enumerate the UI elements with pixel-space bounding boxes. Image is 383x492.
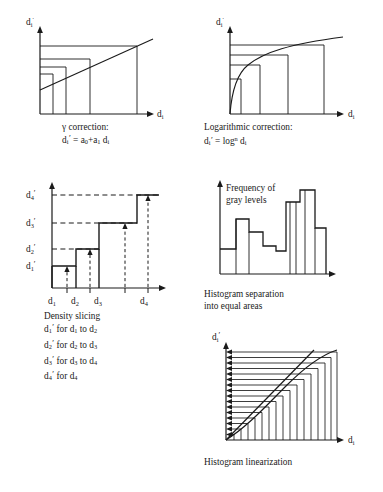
mapping-arrowheads — [226, 349, 232, 437]
y-axis-arrowhead — [217, 180, 223, 187]
caption-line-5: d4′ for d4 — [44, 369, 100, 385]
caption-title: Density slicing — [44, 310, 100, 322]
histogram-separation-plot: Frequency of gray levels — [208, 174, 368, 286]
transfer-function-line — [40, 39, 153, 90]
histogram-linearization-caption: Histogram linearization — [204, 456, 292, 468]
vertical-divider-lines — [53, 46, 137, 114]
radiometric-enhancement-figure: di′ di γ correction: di′ = a0+a1 di — [0, 0, 383, 492]
y-tick-label-d4: d4′ — [26, 189, 36, 202]
x-axis-arrowhead — [337, 437, 344, 443]
logarithmic-correction-panel: di′ di — [212, 18, 367, 122]
caption-line-3: d2′ for d2 to d3 — [44, 338, 100, 354]
x-axis-arrowhead — [329, 271, 336, 277]
step-transfer-function — [52, 195, 159, 266]
y-tick-label-d3: d3′ — [26, 217, 36, 230]
x-axis-arrowhead — [337, 111, 344, 117]
reference-line — [226, 350, 314, 440]
density-slicing-panel: d4′ d3′ d2′ d1′ d1 d2 d3 d4 — [14, 174, 186, 306]
caption-line-2: into equal areas — [204, 300, 284, 312]
y-axis-label: di′ — [26, 18, 34, 28]
x-axis-label: di — [157, 109, 164, 120]
x-tick-label-d1: d1 — [48, 296, 56, 306]
y-axis-label: di′ — [212, 331, 220, 344]
x-tick-label-d4: d4 — [140, 296, 149, 306]
x-tick-label-d3: d3 — [94, 296, 102, 306]
logarithmic-correction-plot: di′ di — [212, 18, 367, 122]
y-axis-arrowhead — [49, 182, 55, 189]
cumulative-histogram-curve — [226, 350, 337, 440]
x-axis-label: di — [348, 435, 355, 446]
horizontal-level-lines — [40, 46, 137, 74]
caption-line-1: Histogram separation — [204, 288, 284, 300]
x-axis-arrowhead — [147, 111, 154, 117]
y-axis-label-line-2: gray levels — [226, 195, 267, 205]
density-slicing-caption: Density slicing d1′ for d1 to d2 d2′ for… — [44, 310, 100, 385]
histogram-linearization-panel: di′ di — [200, 330, 375, 456]
y-tick-label-d1: d1′ — [26, 260, 36, 273]
caption-line-1: γ correction: — [62, 121, 109, 133]
caption-line-2: di′ = logn di — [204, 133, 293, 150]
histogram-separation-panel: Frequency of gray levels — [208, 174, 368, 286]
caption-line-4: d3′ for d3 to d4 — [44, 354, 100, 370]
y-axis-arrowhead — [37, 26, 43, 33]
transfer-function-curve — [230, 37, 343, 114]
gamma-correction-panel: di′ di — [22, 18, 172, 122]
density-slicing-plot: d4′ d3′ d2′ d1′ d1 d2 d3 d4 — [14, 174, 186, 306]
x-axis-label: di — [348, 109, 355, 120]
x-tick-label-d2: d2 — [71, 296, 79, 306]
caption-line-1: Logarithmic correction: — [204, 121, 293, 133]
y-axis-label-line-1: Frequency of — [226, 183, 276, 193]
gamma-correction-plot: di′ di — [22, 18, 172, 122]
histogram-linearization-plot: di′ di — [200, 330, 375, 456]
x-axis-ticks — [67, 288, 148, 293]
caption-line-2: d1′ for d1 to d2 — [44, 322, 100, 338]
y-axis-label: di′ — [216, 18, 224, 28]
histogram-separation-caption: Histogram separation into equal areas — [204, 288, 284, 313]
y-axis-arrowhead — [223, 342, 229, 349]
level-guide-lines — [52, 195, 159, 249]
caption-line-2: di′ = a0+a1 di — [62, 133, 109, 149]
logarithmic-correction-caption: Logarithmic correction: di′ = logn di — [204, 121, 293, 150]
x-axis-arrowhead — [159, 285, 166, 291]
y-tick-label-d2: d2′ — [26, 243, 36, 256]
mapping-arrow-shafts — [67, 200, 148, 287]
caption-title: Histogram linearization — [204, 456, 292, 468]
gamma-correction-caption: γ correction: di′ = a0+a1 di — [62, 121, 109, 149]
y-axis-arrowhead — [227, 26, 233, 33]
mapping-arrow-rows — [231, 352, 337, 435]
